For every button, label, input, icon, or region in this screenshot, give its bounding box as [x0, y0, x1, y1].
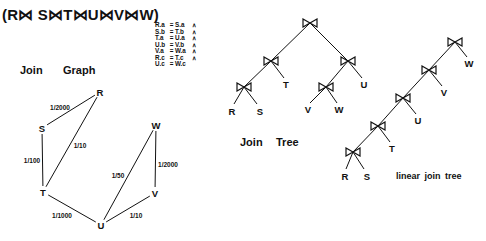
join-operator-icon — [319, 83, 333, 91]
join-graph-edges — [42, 95, 156, 222]
join-operator-icon — [396, 94, 410, 102]
edge-label-r-t: 1/10 — [74, 142, 87, 149]
linear-leaf-u: U — [415, 115, 422, 126]
join-operator-icon — [264, 57, 278, 65]
edge-label-r-s: 1/2000 — [50, 104, 70, 111]
tree-leaf-r: R — [229, 106, 236, 117]
edge-label-w-v: 1/2000 — [158, 161, 178, 168]
join-operator-icon — [303, 19, 317, 27]
tree-leaf-t: T — [283, 79, 289, 90]
linear-leaf-r: R — [342, 171, 349, 182]
join-operator-icon — [422, 66, 436, 74]
graph-edge-w-v — [155, 131, 156, 187]
graph-edge-r-t — [46, 97, 97, 187]
join-operator-icon — [237, 83, 251, 91]
edge-label-u-w: 1/50 — [112, 172, 125, 179]
linear-leaf-s: S — [364, 171, 370, 182]
linear-tree-edges — [346, 42, 467, 169]
graph-edge-u-v — [106, 196, 150, 222]
diagram-canvas — [0, 0, 486, 241]
linear-leaf-v: V — [441, 87, 447, 98]
linear-leaf-t: T — [389, 143, 395, 154]
graph-node-s: S — [39, 123, 45, 134]
join-operator-icon — [371, 122, 385, 130]
tree-leaf-u: U — [361, 79, 368, 90]
graph-node-v: V — [152, 188, 158, 199]
edge-label-s-t: 1/100 — [24, 157, 40, 164]
graph-node-t: T — [40, 187, 46, 198]
graph-node-r: R — [97, 87, 104, 98]
edge-label-t-u: 1/1000 — [52, 212, 72, 219]
edge-label-u-v: 1/10 — [130, 212, 143, 219]
join-operator-icon — [341, 57, 355, 65]
join-operator-icons — [237, 19, 462, 156]
graph-edge-s-t — [42, 134, 43, 186]
tree-leaf-s: S — [257, 106, 263, 117]
tree-leaf-w: W — [335, 104, 344, 115]
linear-leaf-w: W — [465, 58, 474, 69]
graph-node-w: W — [152, 120, 161, 131]
tree-leaf-v: V — [305, 104, 311, 115]
graph-node-u: U — [98, 220, 105, 231]
join-operator-icon — [448, 38, 462, 46]
join-operator-icon — [346, 148, 360, 156]
